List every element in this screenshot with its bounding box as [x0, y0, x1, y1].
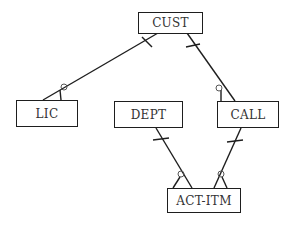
relationship-call-actitm [214, 128, 243, 188]
crows-foot-mark [173, 177, 180, 188]
one-bar-mark [227, 140, 243, 142]
crows-foot-mark [222, 177, 227, 188]
one-bar-mark [153, 138, 169, 140]
zero-circle-mark [216, 85, 222, 91]
entity-call: CALL [217, 101, 279, 128]
one-bar-mark [186, 44, 200, 47]
entity-act-itm: ACT-ITM [167, 188, 241, 213]
entity-lic: LIC [16, 100, 78, 127]
entity-label: ACT-ITM [176, 194, 232, 208]
entity-label: DEPT [131, 108, 167, 122]
entity-dept: DEPT [114, 101, 183, 128]
crows-foot-mark [60, 90, 61, 100]
er-diagram: CUST LIC DEPT CALL ACT-ITM [0, 0, 292, 225]
relationship-cust-lic [43, 33, 158, 100]
entity-label: CUST [152, 16, 189, 30]
entity-label: LIC [36, 107, 59, 121]
relationship-cust-call [186, 33, 235, 101]
entity-cust: CUST [138, 12, 203, 34]
relationship-dept-actitm [153, 128, 192, 188]
entity-label: CALL [231, 108, 266, 122]
